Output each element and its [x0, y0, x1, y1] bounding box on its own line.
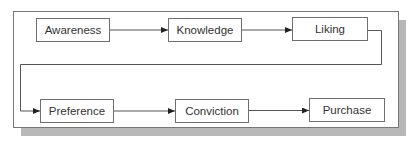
node-preference: Preference: [40, 99, 114, 123]
node-label: Knowledge: [177, 24, 234, 36]
node-label: Liking: [315, 23, 345, 35]
node-conviction: Conviction: [175, 99, 249, 123]
node-liking: Liking: [292, 17, 368, 41]
node-label: Purchase: [323, 104, 372, 116]
node-label: Awareness: [45, 24, 102, 36]
node-knowledge: Knowledge: [168, 18, 242, 42]
node-purchase: Purchase: [309, 98, 385, 122]
node-label: Preference: [49, 105, 105, 117]
node-awareness: Awareness: [36, 18, 110, 42]
node-label: Conviction: [185, 105, 239, 117]
